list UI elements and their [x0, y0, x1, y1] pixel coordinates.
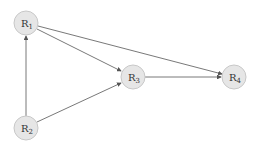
node-r3: R3	[121, 65, 145, 89]
graph-canvas: R1 R2 R3 R4	[0, 0, 262, 151]
node-r1: R1	[14, 11, 38, 35]
node-r4: R4	[222, 65, 246, 89]
edge-r1-r3	[37, 29, 121, 71]
node-r2: R2	[14, 116, 38, 140]
edge-r2-r3	[37, 83, 121, 122]
